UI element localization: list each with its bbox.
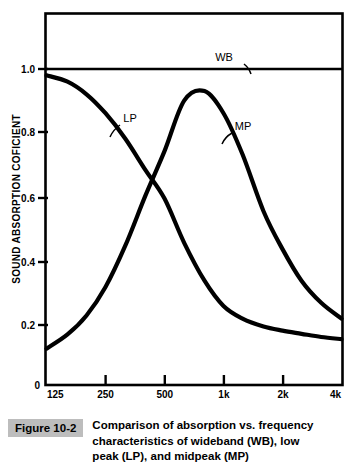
figure-number-tag: Figure 10-2 bbox=[8, 419, 83, 437]
y-tick-label-0: 0 bbox=[34, 380, 40, 391]
absorption-vs-frequency-chart: 1.0 0.8 0.6 0.4 0.2 0 SOUND ABSORPTION C… bbox=[0, 0, 360, 400]
x-tick-label-125: 125 bbox=[47, 389, 64, 400]
y-axis-title: SOUND ABSORPTION COFICIENT bbox=[11, 114, 22, 284]
x-axis-tick-labels: 125 250 500 1k 2k 4k bbox=[47, 389, 341, 400]
chart-plot-area: 1.0 0.8 0.6 0.4 0.2 0 SOUND ABSORPTION C… bbox=[0, 0, 360, 400]
y-tick-label-0.8: 0.8 bbox=[21, 127, 35, 138]
x-tick-label-500: 500 bbox=[156, 389, 173, 400]
y-tick-label-0.4: 0.4 bbox=[21, 257, 35, 268]
y-tick-label-1.0: 1.0 bbox=[21, 64, 35, 75]
x-tick-label-1k: 1k bbox=[218, 389, 230, 400]
curve-label-wb: WB bbox=[215, 51, 233, 63]
figure-caption-text: Comparison of absorption vs. frequency c… bbox=[92, 418, 324, 465]
x-tick-label-4k: 4k bbox=[330, 389, 342, 400]
figure-10-2: 1.0 0.8 0.6 0.4 0.2 0 SOUND ABSORPTION C… bbox=[0, 0, 360, 467]
y-tick-label-0.6: 0.6 bbox=[21, 193, 35, 204]
x-tick-label-2k: 2k bbox=[278, 389, 290, 400]
figure-caption: Figure 10-2 Comparison of absorption vs.… bbox=[0, 418, 360, 465]
y-axis-tick-labels: 1.0 0.8 0.6 0.4 0.2 0 bbox=[21, 64, 40, 391]
curve-label-mp: MP bbox=[235, 120, 252, 132]
x-tick-label-250: 250 bbox=[97, 389, 114, 400]
curve-label-lp: LP bbox=[123, 112, 136, 124]
y-tick-label-0.2: 0.2 bbox=[21, 320, 35, 331]
